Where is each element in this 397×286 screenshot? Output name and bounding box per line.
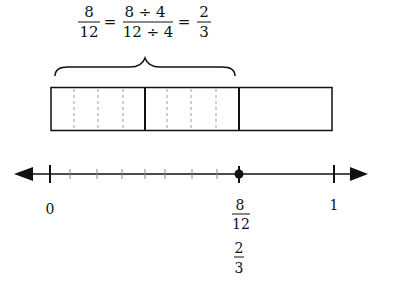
equivalent-numerator: 2: [235, 240, 244, 256]
fraction-diagram: 8 12 = 8 ÷ 4 12 ÷ 4 = 2 3: [0, 0, 397, 286]
lhs-numerator: 8: [84, 3, 94, 21]
equivalent-denominator: 3: [235, 260, 244, 276]
equation: 8 12 = 8 ÷ 4 12 ÷ 4 = 2 3: [78, 3, 211, 41]
middle-numerator: 8 ÷ 4: [124, 3, 165, 21]
right-arrow-icon: [350, 167, 368, 181]
rhs-numerator: 2: [199, 3, 209, 21]
number-line: 0 1 8 12 2 3: [14, 165, 368, 276]
middle-denominator: 12 ÷ 4: [123, 23, 174, 41]
curly-brace: [55, 58, 235, 76]
rhs-denominator: 3: [199, 23, 209, 41]
point-numerator: 8: [236, 197, 245, 213]
bar-model: [51, 88, 332, 131]
lhs-denominator: 12: [79, 23, 98, 41]
point-denominator: 12: [232, 216, 250, 232]
label-zero: 0: [46, 201, 55, 217]
point-marker: [235, 170, 244, 179]
left-arrow-icon: [14, 167, 33, 181]
label-one: 1: [330, 197, 339, 213]
equals-sign-1: =: [104, 13, 117, 31]
equals-sign-2: =: [178, 13, 191, 31]
